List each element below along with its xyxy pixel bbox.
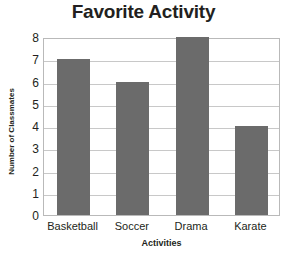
y-tick-label: 0	[16, 210, 39, 222]
bar	[57, 59, 90, 215]
bar	[116, 82, 149, 216]
y-tick-label: 3	[16, 143, 39, 155]
y-tick-label: 2	[16, 166, 39, 178]
y-axis-tick-labels: 012345678	[16, 38, 39, 216]
x-tick-label: Soccer	[115, 219, 149, 233]
bars-layer	[44, 39, 279, 215]
plot-area	[43, 38, 280, 216]
y-tick-label: 6	[16, 77, 39, 89]
y-tick-label: 5	[16, 99, 39, 111]
x-axis-tick-labels: BasketballSoccerDramaKarate	[43, 219, 280, 235]
bar-chart: Favorite Activity Number of Classmates 0…	[0, 0, 287, 256]
y-tick-label: 1	[16, 188, 39, 200]
y-axis-title: Number of Classmates	[7, 72, 16, 192]
x-tick-label: Drama	[175, 219, 208, 233]
x-tick-label: Karate	[234, 219, 266, 233]
chart-title: Favorite Activity	[0, 1, 287, 23]
x-axis-title: Activities	[43, 238, 280, 248]
y-tick-label: 4	[16, 121, 39, 133]
y-tick-label: 8	[16, 32, 39, 44]
y-tick-label: 7	[16, 54, 39, 66]
bar	[235, 126, 268, 215]
x-tick-label: Basketball	[47, 219, 98, 233]
bar	[176, 37, 209, 215]
